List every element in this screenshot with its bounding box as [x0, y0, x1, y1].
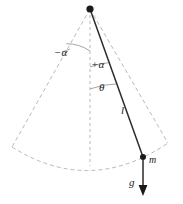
label-gravity: g	[129, 177, 135, 188]
label-alpha-negative: −α	[54, 47, 67, 58]
label-alpha-positive: +α	[91, 59, 104, 70]
cone-left-edge	[12, 9, 90, 147]
label-theta: θ	[99, 82, 104, 93]
arc-minus-alpha	[66, 44, 90, 51]
conical-pendulum-diagram: −α +α θ l m g	[0, 0, 183, 204]
pivot-point	[86, 5, 93, 12]
diagram-canvas	[0, 0, 183, 204]
label-mass: m	[149, 155, 156, 165]
pendulum-rod	[90, 9, 143, 157]
label-rod-length: l	[121, 105, 124, 116]
gravity-arrowhead	[139, 185, 148, 196]
cone-right-edge	[90, 9, 168, 143]
mass-bob	[140, 154, 146, 160]
